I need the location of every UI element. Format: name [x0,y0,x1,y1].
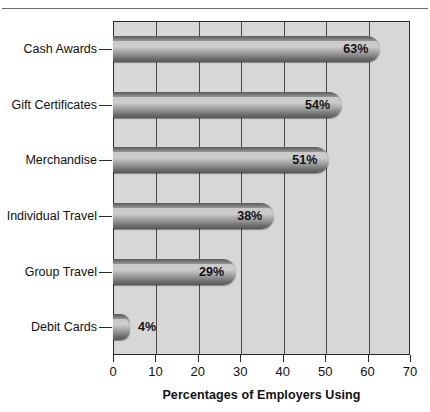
category-label: Merchandise [25,147,97,173]
x-axis-tick [113,355,114,362]
plot-inner [114,22,409,354]
category-connector [99,327,112,328]
category-connector [99,105,112,106]
bar-value-label: 54% [305,92,330,118]
bar-row: 54% [113,92,410,118]
x-axis-tick-label: 10 [135,364,175,379]
plot-area [113,21,410,355]
x-axis-tick-label: 20 [178,364,218,379]
category-connector [99,272,112,273]
gridline [369,22,370,354]
x-axis-tick-label: 40 [263,364,303,379]
gridline [241,22,242,354]
category-label: Individual Travel [7,203,97,229]
x-axis-tick-label: 60 [348,364,388,379]
x-axis-tick-label: 50 [305,364,345,379]
category-label: Debit Cards [31,314,97,340]
x-axis-tick [368,355,369,362]
category-connector [99,49,112,50]
x-axis-tick-label: 70 [390,364,430,379]
bar-value-label: 63% [343,36,368,62]
category-connector [99,216,112,217]
bar-row: 4% [113,314,410,340]
x-axis-tick [283,355,284,362]
x-axis-tick [155,355,156,362]
x-axis-tick-label: 0 [93,364,133,379]
x-axis-tick-label: 30 [220,364,260,379]
gridline [326,22,327,354]
x-axis-tick [240,355,241,362]
category-label: Gift Certificates [12,92,97,118]
category-label: Group Travel [25,259,97,285]
bar-row: 29% [113,259,410,285]
bar[interactable] [113,36,380,62]
x-axis-title: Percentages of Employers Using [113,388,410,402]
bar-chart: 010203040506070 Cash AwardsGift Certific… [0,0,430,412]
x-axis-tick [198,355,199,362]
category-connector [99,160,112,161]
category-label: Cash Awards [24,36,97,62]
bar-value-label: 51% [292,147,317,173]
bar-value-label: 29% [199,259,224,285]
bar-row: 38% [113,203,410,229]
x-axis-tick [325,355,326,362]
gridline [199,22,200,354]
bar-value-label: 38% [237,203,262,229]
x-axis-tick [410,355,411,362]
bar-row: 51% [113,147,410,173]
bar-row: 63% [113,36,410,62]
bar-value-label: 4% [138,314,156,340]
bar[interactable] [113,314,130,340]
gridline [284,22,285,354]
gridline [156,22,157,354]
